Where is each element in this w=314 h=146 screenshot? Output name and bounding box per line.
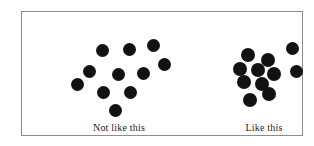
dot bbox=[243, 93, 257, 107]
dot bbox=[241, 48, 255, 62]
cluster-label-like-this: Like this bbox=[227, 122, 301, 134]
dot bbox=[233, 62, 247, 76]
figure-root: Not like thisLike this bbox=[0, 0, 314, 146]
dot bbox=[290, 65, 303, 78]
figure-frame: Not like thisLike this bbox=[21, 11, 303, 136]
dot bbox=[262, 87, 276, 101]
dot bbox=[237, 75, 251, 89]
dot bbox=[251, 63, 265, 77]
dot bbox=[286, 42, 299, 55]
dot bbox=[267, 67, 281, 81]
dot-cluster-like-this: Like this bbox=[22, 12, 302, 135]
